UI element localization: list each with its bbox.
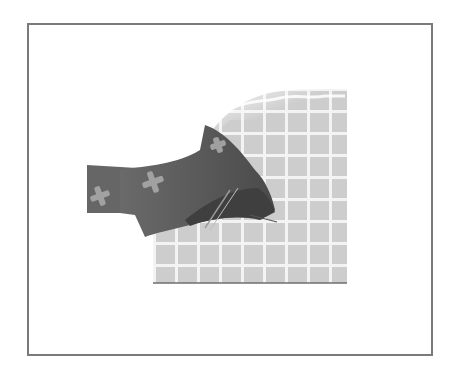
fabric-photo [0,0,458,370]
